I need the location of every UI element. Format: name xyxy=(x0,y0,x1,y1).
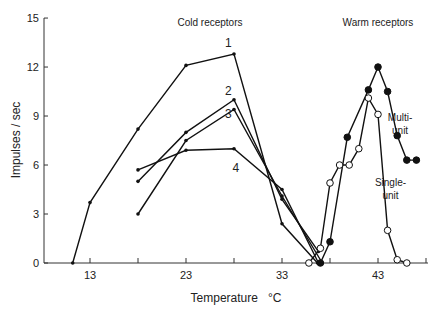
data-point-filled xyxy=(375,64,382,71)
data-point xyxy=(280,188,284,192)
data-point-open xyxy=(356,145,363,152)
data-point-open xyxy=(384,227,391,234)
x-ticks: 13233343 xyxy=(84,258,426,281)
x-tick-label: 33 xyxy=(276,269,288,281)
series-line xyxy=(138,100,319,252)
data-point xyxy=(280,222,284,226)
curve-label: 2 xyxy=(225,84,232,98)
data-point xyxy=(88,201,92,205)
data-point xyxy=(184,139,188,143)
x-tick-label: 43 xyxy=(372,269,384,281)
data-point-filled xyxy=(327,238,334,245)
series-multi-unit xyxy=(317,64,420,267)
curve-label: 3 xyxy=(225,107,232,121)
y-ticks: 03691215 xyxy=(27,12,48,269)
data-point-open xyxy=(346,162,353,169)
data-point-filled xyxy=(317,260,324,267)
data-point-filled xyxy=(413,157,420,164)
data-point-open xyxy=(327,180,334,187)
series-line xyxy=(73,54,318,263)
data-point-filled xyxy=(344,134,351,141)
y-tick-label: 6 xyxy=(33,159,39,171)
series-line xyxy=(138,110,322,264)
y-tick-label: 0 xyxy=(33,257,39,269)
annotation: Single- xyxy=(375,177,406,188)
data-point xyxy=(136,168,140,172)
data-point xyxy=(71,261,75,265)
axes: 03691215 13233343 xyxy=(27,12,428,281)
y-tick-label: 12 xyxy=(27,61,39,73)
data-point-filled xyxy=(365,87,372,94)
x-axis-title: Temperature °C xyxy=(191,291,282,305)
data-point xyxy=(184,64,188,68)
data-point-open xyxy=(394,256,401,263)
data-point xyxy=(184,131,188,135)
data-point-open xyxy=(306,260,313,267)
x-tick-label: 23 xyxy=(180,269,192,281)
y-tick-label: 15 xyxy=(27,12,39,24)
data-point-open xyxy=(336,162,343,169)
annotation: Cold receptors xyxy=(177,17,242,28)
curve-label: 4 xyxy=(233,161,240,175)
data-point-filled xyxy=(404,157,411,164)
data-point xyxy=(232,108,236,112)
data-point-filled xyxy=(384,88,391,95)
series-group: 1234 xyxy=(71,36,420,266)
data-point xyxy=(232,98,236,102)
data-point-open xyxy=(365,95,372,102)
data-point xyxy=(136,212,140,216)
y-tick-label: 9 xyxy=(33,110,39,122)
data-point-open xyxy=(404,260,411,267)
data-point xyxy=(232,147,236,151)
series-3: 3 xyxy=(136,107,324,265)
data-point-open xyxy=(317,245,324,252)
annotation: Multi- xyxy=(388,112,412,123)
annotation: Warm receptors xyxy=(343,17,414,28)
data-point xyxy=(136,180,140,184)
series-line xyxy=(138,149,319,263)
data-point xyxy=(280,194,284,198)
curve-label: 1 xyxy=(225,36,232,50)
line-chart: 03691215 13233343 Impulses / sec Tempera… xyxy=(0,0,436,311)
data-point xyxy=(136,127,140,131)
data-point-filled xyxy=(394,132,401,139)
data-point xyxy=(184,149,188,153)
y-axis-title: Impulses / sec xyxy=(9,102,23,179)
y-tick-label: 3 xyxy=(33,208,39,220)
annotations: Cold receptorsWarm receptorsMulti-unitSi… xyxy=(177,17,413,201)
x-tick-label: 13 xyxy=(84,269,96,281)
series-4: 4 xyxy=(136,147,320,265)
data-point xyxy=(232,52,236,56)
data-point-open xyxy=(375,111,382,118)
